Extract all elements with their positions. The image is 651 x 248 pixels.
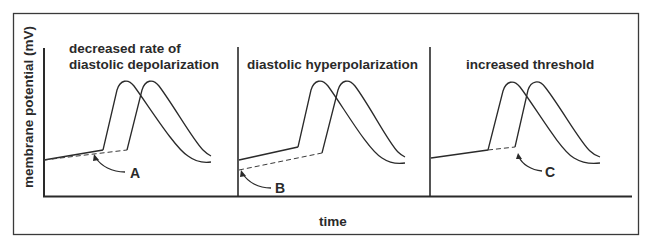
panel2-action-potential-delayed bbox=[322, 81, 405, 157]
panel2-baseline-hyperpolarized bbox=[239, 153, 322, 170]
panel1-action-potential-delayed bbox=[127, 81, 211, 156]
panel2-baseline-normal bbox=[239, 147, 298, 160]
annotation-b-arrowhead-icon bbox=[240, 170, 246, 177]
panel-diastolic-hyperpolarization: diastolic hyperpolarization B bbox=[239, 57, 418, 196]
annotation-b-arrow bbox=[243, 174, 271, 188]
annotation-c-label: C bbox=[545, 164, 555, 180]
panel3-title: increased threshold bbox=[466, 57, 594, 72]
annotation-c-arrowhead-icon bbox=[516, 153, 522, 159]
panel-decreased-rate: decreased rate of diastolic depolarizati… bbox=[44, 41, 219, 181]
panel3-action-potential-normal bbox=[488, 82, 600, 163]
y-axis-label: membrane potential (mV) bbox=[21, 26, 36, 188]
panel1-action-potential-normal bbox=[103, 81, 211, 162]
panel1-title-line1: decreased rate of bbox=[69, 41, 181, 56]
annotation-a-arrowhead-icon bbox=[93, 154, 99, 161]
panel3-baseline-threshold bbox=[488, 147, 515, 150]
panel1-baseline-decreased bbox=[44, 150, 127, 160]
panel1-title-line2: diastolic depolarization bbox=[69, 57, 219, 72]
panel-increased-threshold: increased threshold C bbox=[431, 57, 600, 180]
annotation-b-label: B bbox=[275, 180, 285, 196]
panel3-action-potential-delayed bbox=[515, 82, 600, 157]
panel3-baseline-normal bbox=[431, 150, 488, 158]
annotation-a-arrow bbox=[96, 158, 125, 172]
pacemaker-potential-diagram: membrane potential (mV) time decreased r… bbox=[0, 0, 651, 248]
x-axis-label: time bbox=[319, 214, 347, 229]
panel2-title: diastolic hyperpolarization bbox=[247, 57, 418, 72]
panel2-action-potential-normal bbox=[298, 81, 405, 163]
annotation-a-label: A bbox=[130, 165, 140, 181]
annotation-c-arrow bbox=[519, 157, 542, 171]
